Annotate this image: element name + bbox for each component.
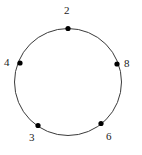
node-label-4: 4 xyxy=(4,57,10,68)
node-dot-6 xyxy=(98,121,103,126)
outer-circle-path xyxy=(15,29,122,136)
node-dot-4 xyxy=(17,60,22,65)
node-label-2: 2 xyxy=(64,5,70,16)
diagram-canvas xyxy=(0,0,142,155)
node-label-6: 6 xyxy=(106,131,112,142)
circle-node-diagram: 2 4 8 3 6 xyxy=(0,0,142,155)
node-label-8: 8 xyxy=(124,58,130,69)
node-dot-3 xyxy=(35,123,40,128)
node-dot-2 xyxy=(65,26,70,31)
node-label-3: 3 xyxy=(29,132,35,143)
node-dot-8 xyxy=(114,61,119,66)
